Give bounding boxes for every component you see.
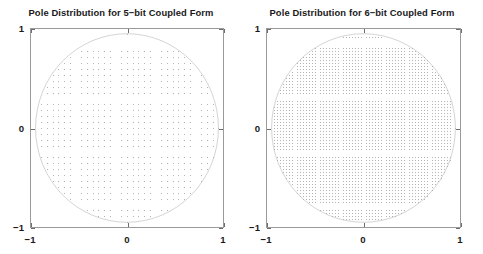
xtick-label-1: 1: [220, 234, 225, 245]
ytick-label-0: 0: [246, 123, 260, 134]
plot-title-left: Pole Distribution for 5−bit Coupled Form: [0, 7, 242, 18]
xtick-label-0: 0: [124, 234, 129, 245]
pole-scatter-left: [31, 29, 223, 227]
ytick-label-1: 1: [10, 23, 24, 34]
ytick-mark-0-right: [456, 129, 460, 130]
xtick-label-neg1: −1: [25, 234, 36, 245]
xtick-mark-neg1-top: [267, 29, 268, 33]
xtick-mark-1-top: [224, 29, 225, 33]
plot-panel-right: Pole Distribution for 6−bit Coupled Form…: [241, 0, 483, 254]
ytick-label-neg1: −1: [242, 222, 260, 233]
ytick-label-1: 1: [246, 23, 260, 34]
xtick-mark-0: [128, 223, 129, 227]
xtick-mark-neg1: [267, 223, 268, 227]
ytick-mark-0-right: [219, 129, 223, 130]
axes-left: [30, 28, 224, 228]
xtick-label-neg1: −1: [261, 234, 272, 245]
axes-right: [266, 28, 461, 228]
xtick-mark-0-top: [128, 29, 129, 33]
plot-panel-left: Pole Distribution for 5−bit Coupled Form…: [0, 0, 242, 254]
ytick-mark-0: [31, 129, 35, 130]
xtick-mark-0: [364, 223, 365, 227]
xtick-label-0: 0: [360, 234, 365, 245]
xtick-mark-1: [224, 223, 225, 227]
ytick-mark-neg1-right: [219, 228, 223, 229]
ytick-mark-neg1-right: [456, 228, 460, 229]
ytick-label-0: 0: [10, 123, 24, 134]
xtick-mark-1: [461, 223, 462, 227]
xtick-label-1: 1: [457, 234, 462, 245]
ytick-mark-neg1: [267, 228, 271, 229]
xtick-mark-neg1-top: [31, 29, 32, 33]
plot-title-right: Pole Distribution for 6−bit Coupled Form: [241, 7, 483, 18]
ytick-mark-1-right: [219, 29, 223, 30]
ytick-label-neg1: −1: [6, 222, 24, 233]
xtick-mark-0-top: [364, 29, 365, 33]
xtick-mark-neg1: [31, 223, 32, 227]
ytick-mark-neg1: [31, 228, 35, 229]
ytick-mark-1-right: [456, 29, 460, 30]
scatter-canvas-left: [31, 29, 223, 227]
scatter-canvas-right: [267, 29, 460, 227]
ytick-mark-0: [267, 129, 271, 130]
xtick-mark-1-top: [461, 29, 462, 33]
pole-scatter-right: [267, 29, 460, 227]
figure-canvas: Pole Distribution for 5−bit Coupled Form…: [0, 0, 483, 254]
